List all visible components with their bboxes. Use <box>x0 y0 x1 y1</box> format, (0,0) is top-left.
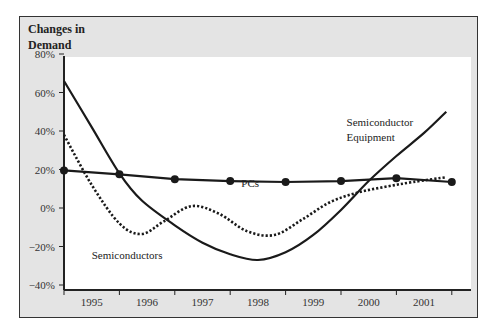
x-tick-label: 1996 <box>136 296 159 308</box>
x-tick-label: 1997 <box>192 296 215 308</box>
x-tick-label: 2001 <box>413 296 435 308</box>
series-annotation: Equipment <box>347 131 395 143</box>
x-tick-label: 1999 <box>302 296 325 308</box>
line-chart: 80%60%40%20%0%−20%−40%199519961997199819… <box>0 0 493 336</box>
data-point-pcs <box>226 177 234 185</box>
y-tick-label: 80% <box>35 48 55 60</box>
data-point-pcs <box>60 166 68 174</box>
series-annotation: Semiconductor <box>347 116 414 128</box>
y-tick-label: 20% <box>35 164 55 176</box>
x-tick-label: 1995 <box>81 296 104 308</box>
y-tick-label: 40% <box>35 125 55 137</box>
data-point-pcs <box>337 177 345 185</box>
y-tick-label: −20% <box>29 241 55 253</box>
x-tick-label: 1998 <box>247 296 270 308</box>
data-point-pcs <box>392 174 400 182</box>
data-point-pcs <box>282 178 290 186</box>
series-annotation: PCs <box>241 177 259 189</box>
data-point-pcs <box>171 175 179 183</box>
data-point-pcs <box>448 178 456 186</box>
y-tick-label: 0% <box>40 202 55 214</box>
series-annotation: Semiconductors <box>92 249 163 261</box>
x-tick-label: 2000 <box>358 296 381 308</box>
y-tick-label: −40% <box>29 279 55 291</box>
y-tick-label: 60% <box>35 87 55 99</box>
